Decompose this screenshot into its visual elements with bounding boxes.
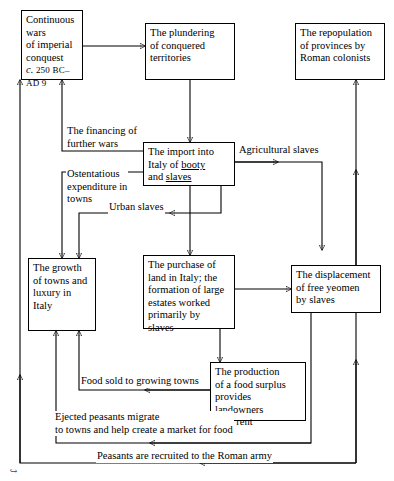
edge-label-financing-line-1: The financing of [67, 125, 137, 138]
node-continuous-wars-date-prefix: c. [26, 64, 33, 75]
node-food-surplus-line-1: The production [215, 366, 301, 379]
edge-label-urban-slaves: Urban slaves [108, 201, 165, 214]
node-displacement-line-1: The displacement [296, 269, 376, 282]
node-continuous-wars-line-3: of imperial [26, 39, 78, 52]
edge-label-agricultural-slaves: Agricultural slaves [238, 144, 320, 157]
node-import-line-3: and slaves [148, 171, 230, 184]
node-food-surplus-line-2: of a food surplus [215, 379, 301, 392]
node-continuous-wars-line-1: Continuous [26, 14, 78, 27]
node-import-into-italy[interactable]: The import into Italy of booty and slave… [143, 142, 235, 186]
edge-label-ejected-line-1: Ejected peasants migrate [55, 411, 233, 424]
edge-label-ostentatious-line-1: Ostentatious [67, 168, 127, 181]
node-purchase-of-land[interactable]: The purchase of land in Italy; the forma… [143, 255, 235, 329]
node-growth-line-2: of towns and [33, 275, 91, 288]
node-purchase-line-5: primarily by [148, 309, 230, 322]
node-continuous-wars-date-text: 250 BC– [36, 65, 70, 75]
edge-label-food-sold-to-growing-towns: Food sold to growing towns [80, 375, 200, 388]
edge-label-ejected-peasants-migrate: Ejected peasants migrate to towns and he… [54, 411, 234, 436]
edge-label-ostentatious-line-2: expenditure in [67, 181, 127, 194]
node-purchase-line-3: formation of large [148, 284, 230, 297]
node-displacement-line-2: of free yeomen [296, 282, 376, 295]
node-displacement-of-yeomen[interactable]: The displacement of free yeomen by slave… [291, 265, 381, 313]
node-continuous-wars-line-4: conquest [26, 52, 78, 65]
page-corner-mark: ↪ [10, 466, 18, 476]
node-plundering-line-1: The plundering [150, 27, 230, 40]
node-repopulation-line-1: The repopulation [300, 27, 380, 40]
edge-import-to-urban-slaves [170, 186, 221, 213]
node-import-line-2: Italy of booty [148, 159, 230, 172]
node-import-slaves-term: slaves [166, 171, 192, 182]
node-import-line-3-prefix: and [148, 171, 166, 182]
node-purchase-line-4: estates worked [148, 297, 230, 310]
edge-label-peasants-recruited: Peasants are recruited to the Roman army [96, 450, 273, 463]
node-import-line-2-prefix: Italy of [148, 159, 181, 170]
node-plundering-line-2: of conquered [150, 40, 230, 53]
edge-import-to-agricultural-slaves [235, 162, 322, 250]
node-plundering[interactable]: The plundering of conquered territories [145, 23, 235, 80]
edge-label-ejected-line-2: to towns and help create a market for fo… [55, 424, 233, 437]
node-repopulation-line-3: Roman colonists [300, 52, 380, 65]
node-purchase-line-6: slaves [148, 322, 230, 335]
node-repopulation[interactable]: The repopulation of provinces by Roman c… [295, 23, 385, 80]
node-import-line-1: The import into [148, 146, 230, 159]
node-plundering-line-3: territories [150, 52, 230, 65]
node-continuous-wars-date-second-line: AD 9 [26, 77, 78, 90]
node-growth-line-1: The growth [33, 262, 91, 275]
node-continuous-wars-line-2: wars [26, 27, 78, 40]
node-growth-of-towns[interactable]: The growth of towns and luxury in Italy [28, 258, 96, 331]
node-continuous-wars-date-line: c. 250 BC– [26, 64, 78, 77]
edge-label-financing-of-further-wars: The financing of further wars [66, 125, 138, 150]
node-import-booty-term: booty [181, 159, 205, 170]
flowchart-diagram: Continuous wars of imperial conquest c. … [0, 0, 394, 481]
node-repopulation-line-2: of provinces by [300, 40, 380, 53]
node-purchase-line-1: The purchase of [148, 259, 230, 272]
edge-label-financing-line-2: further wars [67, 138, 137, 151]
edge-urban-slaves-to-growth [79, 213, 170, 258]
node-displacement-line-3: by slaves [296, 294, 376, 307]
node-growth-line-4: Italy [33, 300, 91, 313]
node-growth-line-3: luxury in [33, 287, 91, 300]
node-continuous-wars[interactable]: Continuous wars of imperial conquest c. … [21, 10, 83, 80]
node-purchase-line-2: land in Italy; the [148, 272, 230, 285]
